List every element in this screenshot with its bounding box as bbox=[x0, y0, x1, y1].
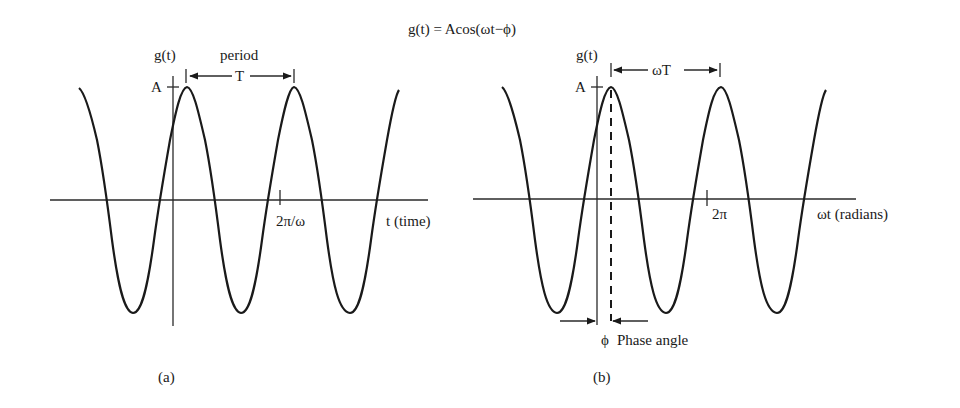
panel-caption: (b) bbox=[593, 369, 611, 386]
panel-caption: (a) bbox=[158, 369, 175, 386]
x-axis-label: t (time) bbox=[386, 213, 431, 230]
equation-title: g(t) = Acos(ωt−ϕ) bbox=[408, 21, 516, 38]
amplitude-label: A bbox=[151, 79, 162, 95]
phase-symbol: ϕ bbox=[601, 332, 609, 348]
amplitude-label: A bbox=[575, 79, 586, 95]
x-tick-label: 2π bbox=[712, 206, 728, 222]
y-axis-label: g(t) bbox=[576, 47, 598, 64]
period-symbol: ωT bbox=[652, 62, 671, 78]
figure: g(t) = Acos(ωt−ϕ) g(t) period T A 2π/ω t… bbox=[0, 0, 960, 408]
x-axis-label: ωt (radians) bbox=[817, 206, 888, 223]
period-symbol: T bbox=[235, 68, 244, 84]
cosine-wave bbox=[502, 87, 826, 313]
phase-label: Phase angle bbox=[617, 332, 689, 348]
panel-b: g(t) ωT A 2π ωt (radians) ϕ Phase angle … bbox=[473, 47, 888, 386]
y-axis-label: g(t) bbox=[154, 47, 176, 64]
x-tick-label: 2π/ω bbox=[276, 213, 305, 229]
panel-a: g(t) period T A 2π/ω t (time) (a) bbox=[50, 47, 431, 386]
period-label: period bbox=[220, 47, 259, 63]
